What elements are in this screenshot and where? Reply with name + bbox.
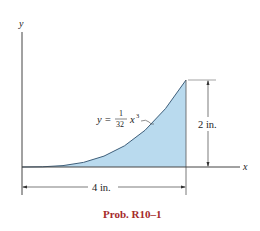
- width-dimension-label: 4 in.: [92, 182, 111, 193]
- equation-variable: x: [129, 114, 135, 125]
- height-dimension-label: 2 in.: [198, 119, 217, 130]
- y-axis-label: y: [18, 18, 24, 29]
- x-axis-label: x: [242, 161, 248, 172]
- figure-caption: Prob. R10–1: [103, 208, 161, 220]
- equation-numerator: 1: [119, 109, 123, 118]
- width-dim-arrow-left: [22, 186, 27, 189]
- equation-denominator: 32: [116, 120, 124, 129]
- height-dim-arrow-bottom: [207, 162, 210, 167]
- height-dim-arrow-top: [207, 80, 210, 85]
- equation-exponent: 3: [136, 112, 139, 119]
- equation-lhs: y =: [96, 114, 111, 125]
- width-dim-arrow-right: [181, 186, 186, 189]
- diagram-canvas: y x y = 1 32 x 3 2 in. 4 in. Prob. R10–1: [0, 0, 260, 231]
